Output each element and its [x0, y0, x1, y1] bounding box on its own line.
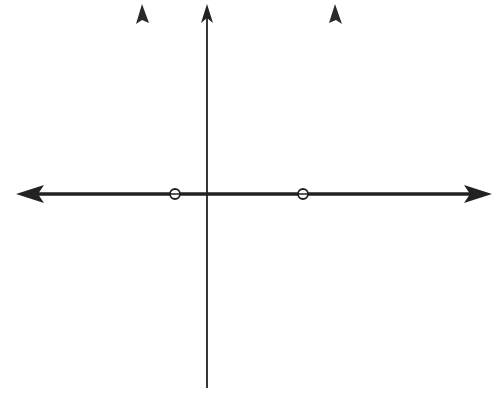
y-axis	[201, 4, 213, 388]
graph	[0, 0, 501, 409]
curve-right-arrow-icon	[329, 4, 342, 24]
curve-left-arrow-icon	[136, 4, 149, 24]
x-axis	[16, 185, 492, 203]
